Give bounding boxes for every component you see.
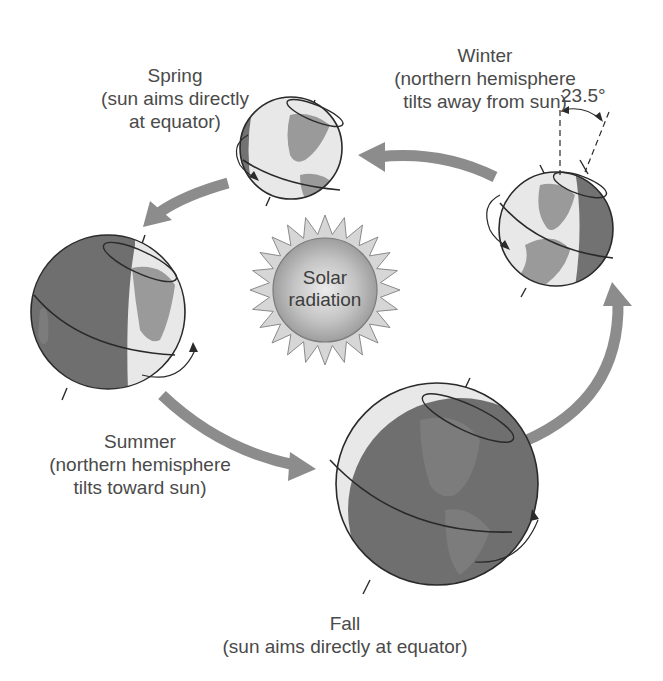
orbit-arrow-spring-to-summer bbox=[143, 183, 228, 227]
fall-desc-line1: (sun aims directly at equator) bbox=[195, 635, 495, 658]
orbit-arrow-winter-to-spring bbox=[358, 142, 495, 177]
fall-label: Fall (sun aims directly at equator) bbox=[195, 612, 495, 658]
sun-label-line1: Solar bbox=[273, 267, 377, 289]
sun-label-line2: radiation bbox=[273, 289, 377, 311]
tilt-angle-label: 23.5° bbox=[561, 85, 606, 107]
tilt-angle-indicator bbox=[560, 106, 609, 175]
orbit-arrow-fall-to-winter bbox=[525, 282, 632, 441]
summer-desc-line1: (northern hemisphere bbox=[35, 453, 245, 476]
spring-desc-line2: at equator) bbox=[80, 110, 270, 133]
summer-desc-line2: tilts toward sun) bbox=[35, 476, 245, 499]
fall-title: Fall bbox=[195, 612, 495, 635]
spring-desc-line1: (sun aims directly bbox=[80, 87, 270, 110]
summer-title: Summer bbox=[35, 430, 245, 453]
globe-fall bbox=[330, 378, 572, 622]
globe-winter bbox=[487, 160, 630, 300]
spring-label: Spring (sun aims directly at equator) bbox=[80, 64, 270, 133]
earth-seasons-diagram: Solar radiation Winter (northern hemisph… bbox=[0, 0, 663, 681]
sun-label: Solar radiation bbox=[273, 267, 377, 311]
globe-summer bbox=[28, 232, 198, 400]
summer-label: Summer (northern hemisphere tilts toward… bbox=[35, 430, 245, 499]
winter-title: Winter bbox=[375, 44, 595, 67]
spring-title: Spring bbox=[80, 64, 270, 87]
